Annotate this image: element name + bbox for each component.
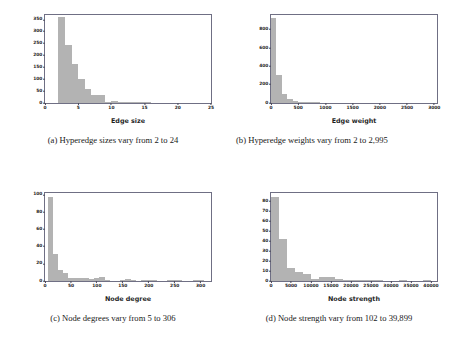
subfigure-c: 020406080100 050100150200250300 Node deg… (0, 178, 226, 356)
y-axis-tick-label: 600 (259, 46, 271, 50)
histogram-bar (118, 102, 125, 103)
xlabel-d: Node strength (270, 296, 438, 302)
plot-wrap-c: 020406080100 050100150200250300 Node deg… (8, 186, 218, 304)
histogram-bar (295, 272, 303, 281)
x-axis-tick-label: 50 (68, 281, 74, 288)
y-axis-tick-label: 20 (36, 262, 45, 266)
x-axis-tick-label: 20000 (343, 281, 358, 288)
xlabel-a: Edge size (44, 118, 212, 124)
bars-c (45, 193, 211, 281)
x-axis-tick-label: 10000 (303, 281, 318, 288)
histogram-bar (91, 95, 98, 103)
y-axis-tick-label: 400 (259, 64, 271, 68)
x-axis-tick-label: 0 (269, 281, 272, 288)
x-axis-tick-label: 150 (118, 281, 127, 288)
caption-b: (b) Hyperedge weights vary from 2 to 2,9… (236, 135, 442, 147)
y-axis-tick-label: 800 (259, 27, 271, 31)
x-axis-tick-label: 0 (43, 281, 46, 288)
subfigure-b: 0200400600800 050010001500200025003000 E… (226, 0, 452, 178)
x-axis-tick-label: 35000 (403, 281, 418, 288)
histogram-bar (98, 95, 105, 103)
x-axis-tick-label: 25000 (363, 281, 378, 288)
y-axis-tick-label: 30 (262, 249, 271, 253)
plot-area-c (45, 193, 211, 281)
y-axis-tick-label: 50 (36, 89, 45, 93)
axes-b: 0200400600800 050010001500200025003000 (270, 14, 438, 104)
axes-c: 020406080100 050100150200250300 (44, 192, 212, 282)
plot-wrap-b: 0200400600800 050010001500200025003000 E… (234, 8, 444, 126)
xlabel-c: Node degree (44, 296, 212, 302)
y-axis-tick-label: 250 (33, 41, 45, 45)
x-axis-tick-label: 40000 (423, 281, 438, 288)
y-axis-tick-label: 10 (262, 269, 271, 273)
bars-b (271, 15, 437, 103)
caption-d: (d) Node strength vary from 102 to 39,89… (236, 313, 442, 325)
plot-area-b (271, 15, 437, 103)
y-axis-tick-label: 80 (36, 210, 45, 214)
y-axis-tick-label: 300 (33, 29, 45, 33)
x-axis-tick-label: 20 (175, 103, 181, 110)
histogram-bar (303, 274, 311, 281)
x-axis-tick-label: 10 (108, 103, 114, 110)
y-axis-tick-label: 200 (33, 53, 45, 57)
x-axis-tick-label: 0 (269, 103, 272, 110)
histogram-bar (72, 64, 79, 103)
histogram-bar (279, 239, 287, 281)
xlabel-b: Edge weight (270, 118, 438, 124)
x-axis-tick-label: 5 (77, 103, 80, 110)
axes-a: 050100150200250300350 0510152025 (44, 14, 212, 104)
x-axis-tick-label: 1500 (347, 103, 359, 110)
bars-d (271, 193, 437, 281)
y-axis-tick-label: 70 (262, 209, 271, 213)
histogram-bar (85, 89, 92, 103)
x-axis-tick-label: 200 (144, 281, 153, 288)
y-axis-tick-label: 40 (262, 239, 271, 243)
plot-area-d (271, 193, 437, 281)
figure-grid: 050100150200250300350 0510152025 Edge si… (0, 0, 452, 356)
x-axis-tick-label: 2500 (401, 103, 413, 110)
x-axis-tick-label: 500 (294, 103, 303, 110)
x-axis-tick-label: 1000 (319, 103, 331, 110)
plot-wrap-a: 050100150200250300350 0510152025 Edge si… (8, 8, 218, 126)
y-axis-tick-label: 350 (33, 18, 45, 22)
histogram-bar (58, 17, 65, 103)
x-axis-tick-label: 250 (170, 281, 179, 288)
histogram-bar (125, 102, 132, 103)
x-axis-tick-label: 5000 (285, 281, 297, 288)
x-axis-tick-label: 300 (196, 281, 205, 288)
y-axis-tick-label: 100 (33, 193, 45, 197)
subfigure-a: 050100150200250300350 0510152025 Edge si… (0, 0, 226, 178)
plot-wrap-d: 01020304050607080 0500010000150002000025… (234, 186, 444, 304)
y-axis-tick-label: 20 (262, 259, 271, 263)
x-axis-tick-label: 15 (142, 103, 148, 110)
x-axis-tick-label: 100 (92, 281, 101, 288)
y-axis-tick-label: 40 (36, 244, 45, 248)
histogram-bar (78, 79, 85, 103)
y-axis-tick-label: 60 (36, 227, 45, 231)
caption-c: (c) Node degrees vary from 5 to 306 (10, 313, 216, 325)
axes-d: 01020304050607080 0500010000150002000025… (270, 192, 438, 282)
histogram-bar (287, 268, 295, 281)
plot-area-a (45, 15, 211, 103)
x-axis-tick-label: 25 (208, 103, 214, 110)
y-axis-tick-label: 80 (262, 199, 271, 203)
caption-b-line-1: (b) Hyperedge weights vary from 2 to (236, 135, 366, 145)
y-axis-tick-label: 200 (259, 82, 271, 86)
subfigure-d: 01020304050607080 0500010000150002000025… (226, 178, 452, 356)
histogram-bar (271, 197, 279, 281)
y-axis-tick-label: 100 (33, 77, 45, 81)
caption-b-line-2: 2,995 (368, 135, 387, 145)
x-axis-tick-label: 15000 (323, 281, 338, 288)
x-axis-tick-label: 0 (43, 103, 46, 110)
y-axis-tick-label: 150 (33, 65, 45, 69)
histogram-bar (131, 102, 138, 103)
x-axis-tick-label: 3000 (428, 103, 440, 110)
y-axis-tick-label: 60 (262, 219, 271, 223)
bars-a (45, 15, 211, 103)
histogram-bar (65, 45, 72, 103)
histogram-bar (105, 280, 110, 281)
histogram-bar (131, 280, 136, 281)
x-axis-tick-label: 30000 (383, 281, 398, 288)
y-axis-tick-label: 50 (262, 229, 271, 233)
caption-a: (a) Hyperedge sizes vary from 2 to 24 (10, 135, 216, 147)
